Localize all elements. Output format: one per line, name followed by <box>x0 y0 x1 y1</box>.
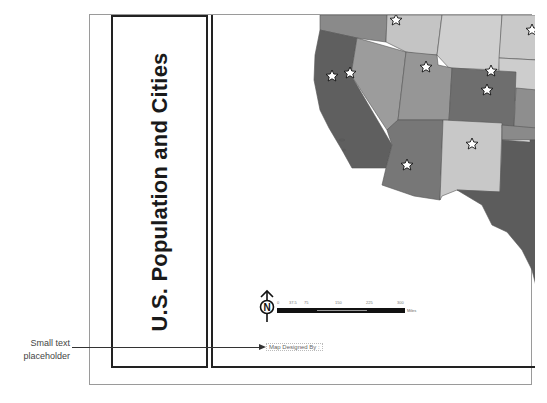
scale-label: 300 <box>397 300 404 305</box>
state-new-mexico <box>440 120 502 200</box>
island <box>343 149 346 151</box>
north-arrow-icon: N <box>257 289 277 323</box>
scale-label: 0 <box>277 300 279 305</box>
callout-label: Small text placeholder <box>8 337 70 363</box>
callout-line-2: placeholder <box>8 350 70 363</box>
scale-label: 225 <box>366 300 373 305</box>
title-panel: U.S. Population and Cities <box>111 15 208 368</box>
state-oklahoma <box>502 125 535 140</box>
state-arizona <box>382 120 443 200</box>
scale-label: 150 <box>335 300 342 305</box>
island <box>339 139 345 141</box>
scale-label: 37.5 <box>289 300 297 305</box>
scale-bar-segment <box>317 310 367 311</box>
scale-label: 75 <box>304 300 308 305</box>
state-colorado <box>446 68 516 128</box>
designed-by-text[interactable]: Map Designed By : <box>266 343 323 351</box>
scale-units: Miles <box>407 308 416 313</box>
arrowhead-icon <box>259 344 266 350</box>
callout-arrow-line <box>72 347 260 348</box>
callout-line-1: Small text <box>8 337 70 350</box>
scale-bar: 0 37.5 75 150 225 300 Miles <box>277 300 427 318</box>
state-wyoming <box>437 15 502 70</box>
scale-labels: 0 37.5 75 150 225 300 <box>277 300 412 306</box>
map-title: U.S. Population and Cities <box>147 52 173 331</box>
state-kansas <box>514 88 535 130</box>
svg-text:N: N <box>263 302 270 313</box>
state-north-east <box>499 15 535 60</box>
